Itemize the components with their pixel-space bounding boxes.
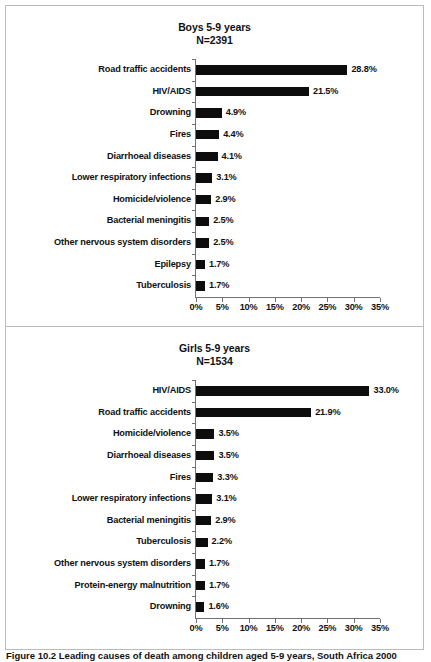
y-axis-tick (192, 423, 196, 424)
bar-value-label: 3.5% (218, 445, 238, 467)
y-axis-tick (192, 146, 196, 147)
x-axis-tick-label: 15% (266, 623, 284, 633)
category-label: Fires (170, 124, 191, 146)
category-label: Lower respiratory infections (72, 167, 191, 189)
plot-area-girls: HIV/AIDS33.0%Road traffic accidents21.9%… (196, 380, 380, 618)
bar-value-label: 4.1% (222, 146, 242, 168)
bar-track: 3.1% (196, 488, 380, 510)
chart-panel-boys: Boys 5-9 years N=2391 Road traffic accid… (6, 6, 423, 325)
bar-value-label: 2.5% (213, 210, 233, 232)
category-label: Drowning (150, 596, 191, 618)
y-axis-tick (192, 81, 196, 82)
bar-value-label: 1.6% (208, 596, 228, 618)
bar-track: 4.4% (196, 124, 380, 146)
y-axis-tick (192, 488, 196, 489)
bar (196, 130, 219, 140)
x-axis-tick-label: 15% (266, 302, 284, 312)
category-label: Lower respiratory infections (72, 488, 191, 510)
bar-track: 21.9% (196, 402, 380, 424)
bar (196, 516, 211, 526)
y-axis-tick (192, 467, 196, 468)
category-label: Diarrhoeal diseases (107, 146, 191, 168)
bar (196, 386, 369, 396)
bar-row: Other nervous system disorders2.5% (196, 232, 380, 254)
bar-row: Bacterial meningitis2.5% (196, 210, 380, 232)
bar (196, 87, 309, 97)
bar-track: 1.6% (196, 596, 380, 618)
category-label: Bacterial meningitis (107, 510, 191, 532)
bar-track: 21.5% (196, 81, 380, 103)
bar-value-label: 21.5% (313, 81, 338, 103)
bar (196, 152, 218, 162)
bar (196, 238, 209, 248)
figure-caption: Figure 10.2 Leading causes of death amon… (6, 650, 431, 662)
bar-track: 1.7% (196, 575, 380, 597)
bar-row: Homicide/violence2.9% (196, 189, 380, 211)
bar-value-label: 3.3% (217, 467, 237, 489)
bar-row: Tuberculosis1.7% (196, 275, 380, 297)
bar-row: Epilepsy1.7% (196, 254, 380, 276)
x-axis-tick-label: 10% (240, 623, 258, 633)
bar (196, 494, 212, 504)
category-label: Homicide/violence (113, 189, 191, 211)
bar-value-label: 2.9% (215, 189, 235, 211)
bar-row: Drowning4.9% (196, 102, 380, 124)
bar-row: Diarrhoeal diseases4.1% (196, 146, 380, 168)
category-label: Epilepsy (154, 254, 191, 276)
bar-value-label: 3.1% (216, 488, 236, 510)
category-label: Other nervous system disorders (54, 553, 191, 575)
bar (196, 559, 205, 569)
bar-value-label: 1.7% (209, 553, 229, 575)
y-axis-tick (192, 232, 196, 233)
x-axis-tick-label: 5% (216, 623, 229, 633)
x-axis-tick-label: 20% (292, 623, 310, 633)
bar (196, 473, 213, 483)
y-axis-tick (192, 275, 196, 276)
bar-value-label: 21.9% (315, 402, 340, 424)
category-label: Homicide/violence (113, 423, 191, 445)
bar-value-label: 1.7% (209, 254, 229, 276)
category-label: Protein-energy malnutrition (75, 575, 191, 597)
y-axis-tick (192, 210, 196, 211)
bar-row: Diarrhoeal diseases3.5% (196, 445, 380, 467)
bar-track: 1.7% (196, 254, 380, 276)
x-axis-tick-label: 30% (345, 623, 363, 633)
bar-track: 2.9% (196, 510, 380, 532)
bar (196, 260, 205, 270)
bar-row: Fires3.3% (196, 467, 380, 489)
bar-row: Road traffic accidents21.9% (196, 402, 380, 424)
bar (196, 281, 205, 291)
bar (196, 538, 208, 548)
bar-value-label: 3.1% (216, 167, 236, 189)
bar-row: Drowning1.6% (196, 596, 380, 618)
bar-rows-girls: HIV/AIDS33.0%Road traffic accidents21.9%… (196, 380, 380, 618)
chart-title-girls: Girls 5-9 years N=1534 (6, 341, 423, 368)
bar-track: 2.2% (196, 531, 380, 553)
bar-row: HIV/AIDS21.5% (196, 81, 380, 103)
y-axis-tick (192, 102, 196, 103)
bar-track: 2.9% (196, 189, 380, 211)
bar-row: Road traffic accidents28.8% (196, 59, 380, 81)
x-axis-tick-label: 25% (319, 302, 337, 312)
y-axis-tick (192, 531, 196, 532)
bar-row: Tuberculosis2.2% (196, 531, 380, 553)
chart-panel-girls: Girls 5-9 years N=1534 HIV/AIDS33.0%Road… (6, 326, 423, 649)
bar-row: Bacterial meningitis2.9% (196, 510, 380, 532)
bar-row: Lower respiratory infections3.1% (196, 488, 380, 510)
bar-row: Fires4.4% (196, 124, 380, 146)
x-axis-tick-label: 30% (345, 302, 363, 312)
bar (196, 65, 347, 75)
y-axis-tick (192, 402, 196, 403)
bar-track: 2.5% (196, 210, 380, 232)
category-label: Bacterial meningitis (107, 210, 191, 232)
bar-value-label: 33.0% (373, 380, 398, 402)
bar-row: Protein-energy malnutrition1.7% (196, 575, 380, 597)
bar-row: Homicide/violence3.5% (196, 423, 380, 445)
bar (196, 429, 214, 439)
bar-value-label: 1.7% (209, 575, 229, 597)
y-axis-tick (192, 254, 196, 255)
bar-track: 2.5% (196, 232, 380, 254)
y-axis-tick (192, 596, 196, 597)
chart-subtitle-boys-text: N=2391 (6, 34, 423, 47)
